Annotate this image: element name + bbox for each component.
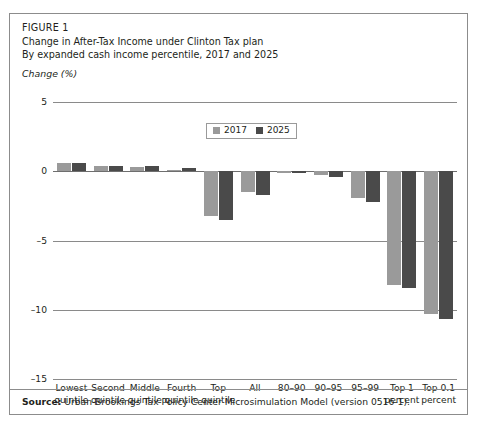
bar-2017 (277, 171, 291, 173)
bar-2017 (351, 171, 365, 197)
y-axis-tick-labels: 50–5–10–15 (13, 102, 47, 379)
bar-2025 (72, 163, 86, 171)
bar-2025 (439, 171, 453, 319)
bar-2025 (256, 171, 270, 195)
bar-2025 (219, 171, 233, 219)
y-tick-label: 0 (13, 166, 47, 175)
legend-swatch-icon (213, 127, 220, 134)
bar-2017 (57, 163, 71, 171)
figure-card: FIGURE 1 Change in After-Tax Income unde… (9, 13, 468, 415)
legend-label: 2025 (267, 126, 290, 135)
y-tick-label: 5 (13, 97, 47, 106)
legend-swatch-icon (256, 127, 263, 134)
bar-2025 (366, 171, 380, 201)
bar-2017 (204, 171, 218, 215)
bar-group (94, 102, 123, 379)
bar-2017 (94, 166, 108, 172)
bar-group (387, 102, 416, 379)
bar-group (57, 102, 86, 379)
figure-title-line-2: By expanded cash income percentile, 2017… (22, 48, 452, 62)
y-tick-label: –10 (13, 305, 47, 314)
figure-label: FIGURE 1 (22, 21, 452, 35)
legend-entry: 2025 (256, 126, 290, 135)
y-tick-label: –15 (13, 374, 47, 383)
legend-entry: 2017 (213, 126, 247, 135)
bar-2025 (292, 171, 306, 173)
chart-legend: 20172025 (206, 123, 297, 139)
bar-group (130, 102, 159, 379)
source-text: Source: Urban-Brookings Tax Policy Cente… (22, 395, 467, 408)
bar-group (351, 102, 380, 379)
bar-2017 (130, 167, 144, 171)
bar-group (241, 102, 270, 379)
bar-2025 (182, 168, 196, 171)
bar-2025 (145, 166, 159, 172)
source-footer: Source: Urban-Brookings Tax Policy Cente… (10, 389, 467, 414)
bar-2017 (241, 171, 255, 192)
y-tick-label: –5 (13, 236, 47, 245)
bar-2017 (314, 171, 328, 175)
source-prefix: Source: (22, 396, 61, 407)
bar-2025 (329, 171, 343, 177)
legend-label: 2017 (224, 126, 247, 135)
chart-plot-area (53, 102, 457, 379)
figure-title-line-1: Change in After-Tax Income under Clinton… (22, 35, 452, 49)
bar-2017 (167, 170, 181, 172)
gridline-neg15 (53, 379, 457, 380)
bar-2017 (387, 171, 401, 285)
bar-2025 (402, 171, 416, 287)
bar-group (167, 102, 196, 379)
bar-2025 (109, 166, 123, 172)
bar-group (204, 102, 233, 379)
bar-2017 (424, 171, 438, 314)
y-axis-unit-label: Change (%) (22, 67, 452, 80)
figure-header: FIGURE 1 Change in After-Tax Income unde… (22, 21, 452, 80)
bar-group (424, 102, 453, 379)
bar-group (314, 102, 343, 379)
bar-group (277, 102, 306, 379)
